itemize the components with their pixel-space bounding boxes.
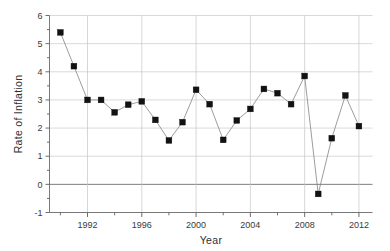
data-point-marker <box>275 90 281 96</box>
data-point-marker <box>342 93 348 99</box>
y-tick-label: -1 <box>34 208 42 218</box>
data-point-marker <box>125 102 131 108</box>
data-point-marker <box>356 123 362 129</box>
data-point-marker <box>234 118 240 124</box>
y-tick-label: 5 <box>37 39 42 49</box>
data-point-marker <box>166 138 172 144</box>
y-tick-label: 3 <box>37 95 42 105</box>
y-tick-label: 6 <box>37 11 42 21</box>
x-tick-label: 2008 <box>295 220 315 230</box>
x-tick-label: 1996 <box>132 220 152 230</box>
data-point-marker <box>98 97 104 103</box>
x-tick-label: 2012 <box>349 220 369 230</box>
x-tick-label: 2004 <box>240 220 260 230</box>
data-point-marker <box>207 101 213 107</box>
chart-canvas: -10123456199219962000200420082012YearRat… <box>0 0 390 251</box>
y-axis-title: Rate of Inflation <box>12 75 24 154</box>
x-tick-label: 1992 <box>77 220 97 230</box>
data-point-marker <box>302 73 308 79</box>
data-point-marker <box>329 135 335 141</box>
data-point-marker <box>85 97 91 103</box>
data-point-marker <box>112 109 118 115</box>
y-tick-label: 0 <box>37 180 42 190</box>
data-point-marker <box>152 117 158 123</box>
data-point-marker <box>220 137 226 143</box>
data-point-marker <box>193 87 199 93</box>
inflation-line-chart: -10123456199219962000200420082012YearRat… <box>0 0 390 251</box>
x-tick-label: 2000 <box>186 220 206 230</box>
y-tick-label: 2 <box>37 123 42 133</box>
y-tick-label: 1 <box>37 151 42 161</box>
data-point-marker <box>247 106 253 112</box>
inflation-series-line <box>60 32 359 194</box>
data-point-marker <box>71 63 77 69</box>
data-point-marker <box>139 98 145 104</box>
data-point-marker <box>315 191 321 197</box>
data-point-marker <box>261 86 267 92</box>
x-axis-title: Year <box>200 234 223 246</box>
data-point-marker <box>288 101 294 107</box>
data-point-marker <box>57 29 63 35</box>
data-point-marker <box>180 119 186 125</box>
y-tick-label: 4 <box>37 67 42 77</box>
